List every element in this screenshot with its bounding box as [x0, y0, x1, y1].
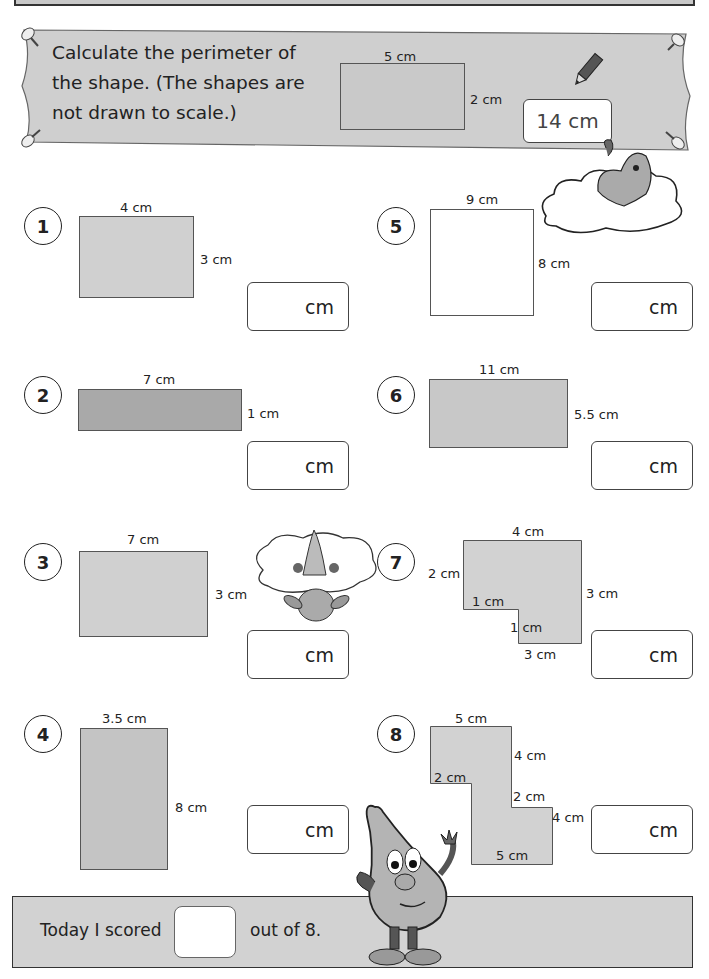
- q7-step-side-label: 1 cm: [510, 620, 542, 635]
- instruction-text: Calculate the perimeter of the shape. (T…: [52, 38, 312, 128]
- q3-rectangle: [79, 551, 208, 637]
- q1-right-label: 3 cm: [200, 252, 232, 267]
- q7-answer-box[interactable]: cm: [591, 630, 693, 679]
- title-bar: [14, 0, 695, 6]
- q2-top-label: 7 cm: [143, 372, 175, 387]
- question-number-1: 1: [24, 207, 62, 245]
- pin-icon: [664, 30, 688, 54]
- unit-label: cm: [305, 644, 334, 666]
- q6-right-label: 5.5 cm: [574, 407, 619, 422]
- pencil-icon: [566, 52, 606, 92]
- q8-bottom-label: 5 cm: [496, 848, 528, 863]
- instruction-line: Calculate the perimeter of: [52, 38, 312, 68]
- cloud-character-illustration: [536, 146, 696, 236]
- question-number-7: 7: [377, 543, 415, 581]
- unit-label: cm: [649, 296, 678, 318]
- q8-answer-box[interactable]: cm: [591, 805, 693, 854]
- q8-right-step-label: 2 cm: [513, 789, 545, 804]
- pin-icon: [18, 26, 42, 50]
- pin-icon: [18, 126, 44, 150]
- example-width-label: 5 cm: [384, 49, 416, 64]
- q5-answer-box[interactable]: cm: [591, 282, 693, 331]
- q7-bottom-label: 3 cm: [524, 647, 556, 662]
- q3-answer-box[interactable]: cm: [247, 630, 349, 679]
- example-height-label: 2 cm: [470, 92, 502, 107]
- unit-label: cm: [649, 644, 678, 666]
- q4-rectangle: [80, 728, 168, 870]
- instruction-line: not drawn to scale.): [52, 98, 312, 128]
- unit-label: cm: [649, 455, 678, 477]
- unit-label: cm: [305, 455, 334, 477]
- q7-top-label: 4 cm: [512, 524, 544, 539]
- score-input-box[interactable]: [174, 906, 236, 958]
- q7-left-label: 2 cm: [428, 566, 460, 581]
- q8-top-label: 5 cm: [455, 711, 487, 726]
- q5-rectangle: [430, 209, 534, 316]
- unit-label: cm: [305, 819, 334, 841]
- q7-step-top-label: 1 cm: [472, 594, 504, 609]
- question-number-5: 5: [377, 207, 415, 245]
- q8-lower-right-label: 4 cm: [552, 810, 584, 825]
- q6-rectangle: [429, 379, 568, 448]
- q7-right-label: 3 cm: [586, 586, 618, 601]
- question-number-4: 4: [24, 715, 62, 753]
- q1-top-label: 4 cm: [120, 200, 152, 215]
- q4-right-label: 8 cm: [175, 800, 207, 815]
- question-number-3: 3: [24, 543, 62, 581]
- q6-top-label: 11 cm: [479, 362, 520, 377]
- score-prefix: Today I scored: [40, 920, 161, 940]
- q8-left-step-label: 2 cm: [434, 770, 466, 785]
- q4-answer-box[interactable]: cm: [247, 805, 349, 854]
- q1-answer-box[interactable]: cm: [247, 282, 349, 331]
- question-number-6: 6: [377, 376, 415, 414]
- q1-rectangle: [79, 216, 194, 298]
- q3-top-label: 7 cm: [127, 532, 159, 547]
- q6-answer-box[interactable]: cm: [591, 441, 693, 490]
- q2-answer-box[interactable]: cm: [247, 441, 349, 490]
- unit-label: cm: [305, 296, 334, 318]
- question-number-2: 2: [24, 376, 62, 414]
- q8-upper-right-label: 4 cm: [514, 748, 546, 763]
- example-rectangle: [340, 63, 465, 130]
- q2-rectangle: [78, 389, 242, 431]
- q2-right-label: 1 cm: [247, 406, 279, 421]
- droplet-character-illustration: [345, 802, 465, 977]
- score-suffix: out of 8.: [250, 920, 321, 940]
- question-number-8: 8: [377, 715, 415, 753]
- q4-top-label: 3.5 cm: [102, 711, 147, 726]
- unit-label: cm: [649, 819, 678, 841]
- q3-right-label: 3 cm: [215, 587, 247, 602]
- instruction-line: the shape. (The shapes are: [52, 68, 312, 98]
- q5-right-label: 8 cm: [538, 256, 570, 271]
- cloud-character-illustration: [248, 530, 378, 620]
- q5-top-label: 9 cm: [466, 192, 498, 207]
- example-answer-box: 14 cm: [523, 99, 612, 143]
